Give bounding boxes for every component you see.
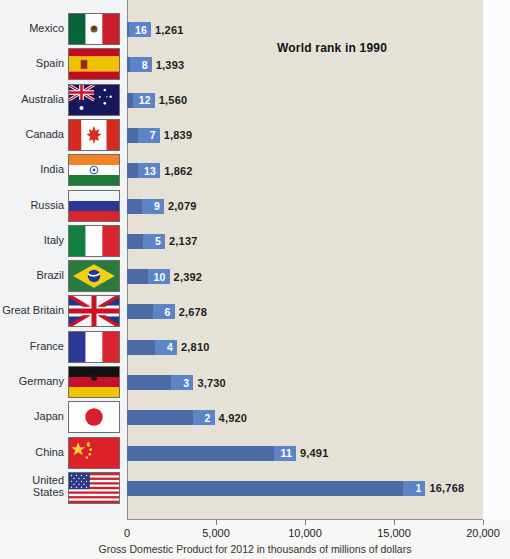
chart-row: UnitedStates 116,768 [0, 472, 510, 507]
chart-row: Australia 121,560 [0, 84, 510, 119]
italy-flag [68, 225, 120, 257]
value-label: 4,920 [219, 410, 248, 425]
country-label: Mexico [0, 22, 64, 35]
brazil-flag [68, 260, 120, 292]
japan-flag [68, 401, 120, 433]
country-label-line2: States [0, 486, 64, 499]
country-label: Russia [0, 199, 64, 212]
mexico-flag [68, 13, 120, 45]
rank-badge: 4 [155, 340, 177, 355]
chart-row: Brazil 102,392 [0, 260, 510, 295]
value-bar [127, 481, 425, 496]
chart-row: India 131,862 [0, 154, 510, 189]
value-label: 3,730 [197, 375, 226, 390]
rank-badge: 13 [138, 163, 160, 178]
australia-flag [68, 84, 120, 116]
country-label: Great Britain [0, 304, 64, 317]
x-axis-tick [305, 520, 306, 525]
chart-row: Russia 92,079 [0, 190, 510, 225]
country-label: UnitedStates [0, 474, 64, 499]
country-label: France [0, 340, 64, 353]
france-flag [68, 331, 120, 363]
country-label: Australia [0, 93, 64, 106]
chart-row: Great Britain 62,678 [0, 295, 510, 330]
chart-row: Canada 71,839 [0, 119, 510, 154]
x-axis-tick-label: 5,000 [202, 527, 230, 539]
rank-badge: 2 [193, 410, 215, 425]
germany-flag [68, 366, 120, 398]
value-label: 2,810 [181, 340, 210, 355]
x-axis-tick-label: 20,000 [466, 527, 500, 539]
rank-badge: 1 [403, 481, 425, 496]
value-label: 16,768 [429, 481, 464, 496]
value-label: 1,560 [159, 93, 188, 108]
value-label: 1,393 [156, 57, 185, 72]
chart-row: France 42,810 [0, 331, 510, 366]
rank-badge: 11 [274, 446, 296, 461]
great-britain-flag [68, 295, 120, 327]
value-label: 2,392 [174, 269, 203, 284]
china-flag [68, 437, 120, 469]
country-label-line1: United [0, 474, 64, 487]
x-axis-tick-label: 10,000 [288, 527, 322, 539]
chart-row: Mexico 161,261 [0, 13, 510, 48]
value-label: 2,079 [168, 199, 197, 214]
rank-badge: 16 [129, 22, 151, 37]
country-label: Japan [0, 410, 64, 423]
country-label: Spain [0, 57, 64, 70]
rank-badge: 5 [143, 234, 165, 249]
india-flag [68, 154, 120, 186]
chart-row: Spain 81,393 [0, 48, 510, 83]
rank-badge: 12 [133, 93, 155, 108]
canada-flag [68, 119, 120, 151]
value-label: 1,839 [164, 128, 193, 143]
country-label: Germany [0, 375, 64, 388]
chart-row: China 119,491 [0, 437, 510, 472]
country-label: Italy [0, 234, 64, 247]
x-axis-tick-label: 0 [124, 527, 130, 539]
value-label: 1,862 [164, 163, 193, 178]
rank-badge: 7 [138, 128, 160, 143]
country-label: China [0, 446, 64, 459]
value-bar [127, 446, 296, 461]
country-label: Canada [0, 128, 64, 141]
x-axis-tick [216, 520, 217, 525]
country-label: Brazil [0, 269, 64, 282]
x-axis-tick [483, 520, 484, 525]
rank-badge: 9 [142, 199, 164, 214]
united-states-flag [68, 472, 120, 504]
x-axis-tick-label: 15,000 [377, 527, 411, 539]
rank-badge: 6 [153, 304, 175, 319]
chart-row: Italy 52,137 [0, 225, 510, 260]
country-label: India [0, 163, 64, 176]
chart-row: Japan 24,920 [0, 401, 510, 436]
rank-badge: 3 [171, 375, 193, 390]
gdp-bar-chart: World rank in 1990 Mexico 161,261Spain 8… [0, 0, 510, 559]
rank-badge: 10 [148, 269, 170, 284]
rank-badge: 8 [130, 57, 152, 72]
spain-flag [68, 48, 120, 80]
russia-flag [68, 190, 120, 222]
x-axis-tick [394, 520, 395, 525]
value-label: 2,678 [179, 304, 208, 319]
value-label: 1,261 [155, 22, 184, 37]
x-axis-caption: Gross Domestic Product for 2012 in thous… [0, 543, 510, 555]
value-label: 2,137 [169, 234, 198, 249]
value-label: 9,491 [300, 446, 329, 461]
chart-row: Germany 33,730 [0, 366, 510, 401]
